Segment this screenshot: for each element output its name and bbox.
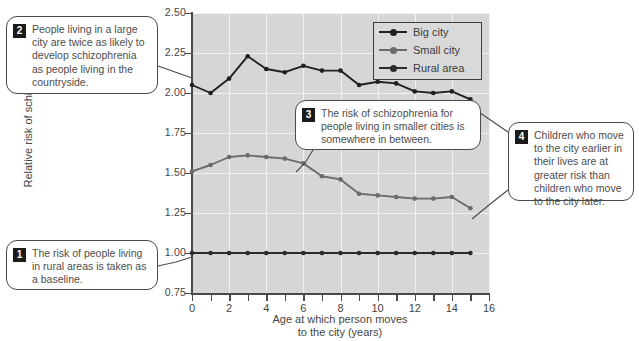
callout-4: 4 Children who move to the city earlier … <box>508 122 634 201</box>
y-tick <box>185 173 192 174</box>
leader-line-2 <box>158 66 192 78</box>
callout-1: 1 The risk of people living in rural are… <box>6 240 158 290</box>
callout-3-number: 3 <box>302 108 315 122</box>
callout-4-text: Children who move to the city earlier in… <box>534 129 626 208</box>
x-tick <box>285 294 286 301</box>
y-tick <box>185 213 192 214</box>
legend-label-big-city: Big city <box>413 26 448 38</box>
chart-figure: 0.751.001.251.501.752.002.252.50 0246810… <box>0 0 639 341</box>
y-tick-label: 1.25 <box>152 206 186 218</box>
y-tick <box>185 13 192 14</box>
x-tick <box>322 294 323 301</box>
legend-label-rural-area: Rural area <box>413 62 464 74</box>
legend-item-big-city: Big city <box>374 23 481 41</box>
x-tick <box>452 294 453 301</box>
grid-line-vertical <box>341 13 342 293</box>
x-axis-title: Age at which person moves to the city (y… <box>215 313 465 338</box>
grid-line-vertical <box>303 13 304 293</box>
legend-item-small-city: Small city <box>374 41 481 59</box>
legend-swatch-big-city <box>379 26 407 38</box>
grid-line-vertical <box>229 13 230 293</box>
callout-4-number: 4 <box>515 130 528 144</box>
x-axis-title-line1: Age at which person moves <box>215 313 465 326</box>
x-tick <box>266 294 267 301</box>
legend: Big city Small city Rural area <box>373 22 482 80</box>
x-tick <box>248 294 249 301</box>
x-tick <box>396 294 397 301</box>
y-tick <box>185 53 192 54</box>
grid-line-vertical <box>266 13 267 293</box>
x-tick <box>378 294 379 301</box>
callout-3-text: The risk of schizophrenia for people liv… <box>321 107 473 147</box>
x-tick <box>303 294 304 301</box>
callout-1-number: 1 <box>13 248 26 262</box>
callout-2-text: People living in a large city are twice … <box>32 23 150 89</box>
callout-2: 2 People living in a large city are twic… <box>6 16 158 94</box>
y-tick-label: 1.75 <box>152 126 186 138</box>
x-tick <box>433 294 434 301</box>
y-tick-label: 0.75 <box>152 286 186 298</box>
y-tick <box>185 93 192 94</box>
x-tick <box>470 294 471 301</box>
x-tick <box>211 294 212 301</box>
x-tick-label: 0 <box>177 302 207 314</box>
grid-line-vertical <box>489 13 490 293</box>
x-tick <box>359 294 360 301</box>
x-tick <box>415 294 416 301</box>
x-tick <box>229 294 230 301</box>
callout-1-text: The risk of people living in rural areas… <box>32 247 150 287</box>
x-tick <box>341 294 342 301</box>
legend-swatch-small-city <box>379 44 407 56</box>
callout-3: 3 The risk of schizophrenia for people l… <box>295 100 481 150</box>
y-tick-label: 2.00 <box>152 86 186 98</box>
x-axis-title-line2: to the city (years) <box>215 326 465 339</box>
y-tick <box>185 293 192 294</box>
y-tick <box>185 133 192 134</box>
x-tick-label: 16 <box>474 302 504 314</box>
y-tick-label: 2.50 <box>152 6 186 18</box>
legend-item-rural-area: Rural area <box>374 59 481 77</box>
x-tick <box>192 294 193 301</box>
legend-label-small-city: Small city <box>413 44 460 56</box>
x-tick <box>489 294 490 301</box>
legend-swatch-rural-area <box>379 62 407 74</box>
y-tick <box>185 253 192 254</box>
y-tick-label: 1.50 <box>152 166 186 178</box>
callout-2-number: 2 <box>13 24 26 38</box>
leader-line-1 <box>158 257 192 266</box>
